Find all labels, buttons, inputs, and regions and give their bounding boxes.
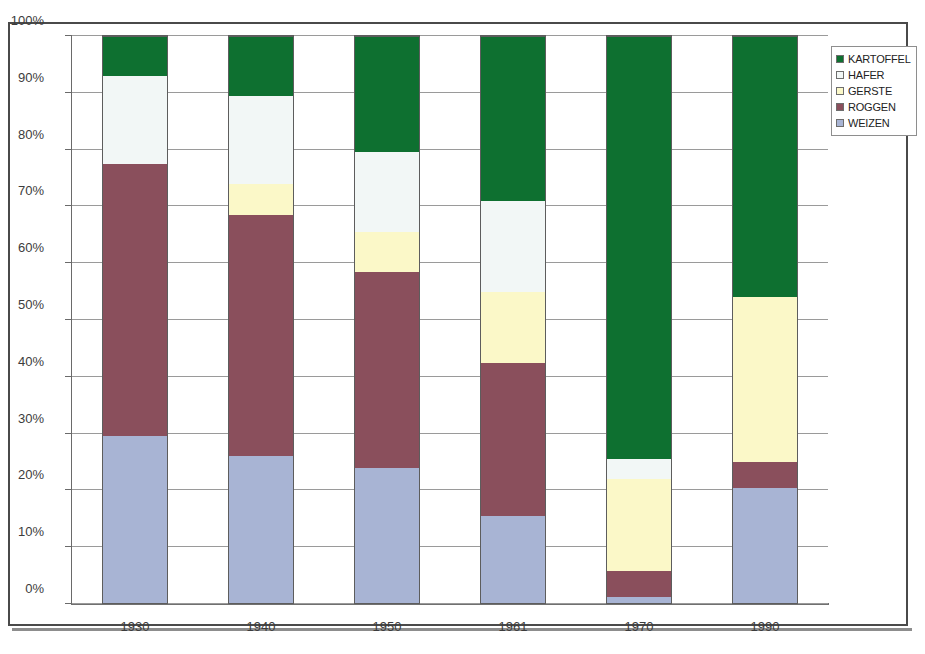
x-axis-tick-label: 1940 (247, 619, 276, 634)
bar-column[interactable]: 1950 (324, 36, 450, 604)
y-axis-tick-mark (65, 319, 72, 320)
legend-item-roggen[interactable]: ROGGEN (836, 99, 913, 115)
y-axis-tick-mark (65, 35, 72, 36)
cropped-title: o (0, 0, 925, 16)
legend-item-label: KARTOFFEL (848, 53, 911, 65)
y-axis-tick-label: 100% (0, 13, 44, 28)
y-axis-tick-label: 40% (0, 354, 44, 369)
bar-segment-gerste[interactable] (732, 297, 798, 462)
x-axis-tick-label: 1990 (751, 619, 780, 634)
bar-column[interactable]: 1930 (72, 36, 198, 604)
stacked-bar[interactable] (606, 36, 672, 604)
plot-inner: 0%10%20%30%40%50%60%70%80%90%100% 193019… (72, 36, 828, 604)
legend-item-label: HAFER (848, 69, 884, 81)
bar-top-edge (354, 35, 420, 36)
bar-segment-hafer[interactable] (480, 201, 546, 292)
bar-segment-weizen[interactable] (102, 436, 168, 604)
legend-swatch-icon (836, 55, 844, 63)
bar-segment-roggen[interactable] (354, 272, 420, 468)
y-axis-tick-mark (65, 92, 72, 93)
legend-item-gerste[interactable]: GERSTE (836, 83, 913, 99)
bar-column[interactable]: 1990 (702, 36, 828, 604)
bar-segment-hafer[interactable] (354, 152, 420, 232)
chart-legend: KARTOFFELHAFERGERSTEROGGENWEIZEN (831, 46, 917, 136)
y-axis-tick-label: 50% (0, 297, 44, 312)
bar-segment-kartoffel[interactable] (354, 36, 420, 152)
x-axis-tick-label: 1930 (121, 619, 150, 634)
bar-segment-gerste[interactable] (606, 479, 672, 571)
bar-segment-roggen[interactable] (606, 571, 672, 597)
bar-column[interactable]: 1970 (576, 36, 702, 604)
legend-swatch-icon (836, 103, 844, 111)
bar-top-edge (732, 35, 798, 36)
stacked-bar[interactable] (480, 36, 546, 604)
bar-segment-weizen[interactable] (228, 456, 294, 604)
y-axis-tick-mark (65, 376, 72, 377)
bar-column[interactable]: 1961 (450, 36, 576, 604)
y-axis-tick-label: 0% (0, 581, 44, 596)
y-axis-tick-label: 70% (0, 183, 44, 198)
bar-segment-hafer[interactable] (228, 96, 294, 184)
bar-segment-kartoffel[interactable] (732, 36, 798, 297)
legend-item-kartoffel[interactable]: KARTOFFEL (836, 51, 913, 67)
y-axis-tick-label: 30% (0, 411, 44, 426)
y-axis-tick-mark (65, 489, 72, 490)
y-axis-tick-label: 60% (0, 240, 44, 255)
legend-item-label: ROGGEN (848, 101, 896, 113)
bar-segment-gerste[interactable] (480, 292, 546, 363)
stacked-bar[interactable] (228, 36, 294, 604)
y-axis-tick-label: 90% (0, 70, 44, 85)
bar-segment-weizen[interactable] (354, 468, 420, 604)
y-axis-tick-label: 10% (0, 524, 44, 539)
legend-swatch-icon (836, 71, 844, 79)
legend-swatch-icon (836, 87, 844, 95)
stacked-bar[interactable] (732, 36, 798, 604)
bar-segment-kartoffel[interactable] (228, 36, 294, 96)
bar-segment-hafer[interactable] (606, 459, 672, 479)
bar-segment-roggen[interactable] (732, 462, 798, 488)
bar-top-edge (102, 35, 168, 36)
legend-item-label: WEIZEN (848, 117, 890, 129)
bar-top-edge (480, 35, 546, 36)
y-axis-tick-mark (65, 433, 72, 434)
bar-segment-gerste[interactable] (354, 232, 420, 272)
legend-item-label: GERSTE (848, 85, 892, 97)
bar-segment-kartoffel[interactable] (606, 36, 672, 459)
bar-segment-roggen[interactable] (102, 164, 168, 437)
bar-top-edge (228, 35, 294, 36)
y-axis-tick-mark (65, 603, 72, 604)
x-axis-tick-label: 1970 (625, 619, 654, 634)
y-axis-tick-mark (65, 546, 72, 547)
legend-item-weizen[interactable]: WEIZEN (836, 115, 913, 131)
bar-segment-roggen[interactable] (228, 215, 294, 456)
bar-segment-weizen[interactable] (606, 597, 672, 604)
plot-area: 0%10%20%30%40%50%60%70%80%90%100% 193019… (72, 36, 828, 604)
y-axis-tick-mark (65, 262, 72, 263)
stacked-bar[interactable] (354, 36, 420, 604)
bar-segment-weizen[interactable] (480, 516, 546, 604)
y-axis-tick-label: 20% (0, 467, 44, 482)
bar-segment-hafer[interactable] (102, 76, 168, 164)
legend-swatch-icon (836, 119, 844, 127)
y-axis-tick-mark (65, 205, 72, 206)
x-axis-tick-label: 1950 (373, 619, 402, 634)
bar-segment-kartoffel[interactable] (480, 36, 546, 201)
bar-segment-weizen[interactable] (732, 488, 798, 604)
bar-segment-roggen[interactable] (480, 363, 546, 516)
bar-segment-gerste[interactable] (228, 184, 294, 215)
legend-item-hafer[interactable]: HAFER (836, 67, 913, 83)
bar-column[interactable]: 1940 (198, 36, 324, 604)
bar-segment-kartoffel[interactable] (102, 36, 168, 76)
x-axis-tick-label: 1961 (499, 619, 528, 634)
bar-top-edge (606, 35, 672, 36)
chart-page: o 0%10%20%30%40%50%60%70%80%90%100% 1930… (0, 0, 925, 654)
y-axis-tick-mark (65, 149, 72, 150)
y-axis-tick-label: 80% (0, 127, 44, 142)
stacked-bar[interactable] (102, 36, 168, 604)
